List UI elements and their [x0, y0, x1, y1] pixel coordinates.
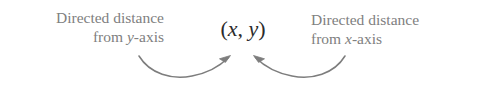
arrow-layer	[0, 0, 485, 92]
right-arrow-head-icon	[254, 56, 265, 63]
left-arrow-curve	[139, 56, 229, 77]
coordinate-point-diagram: Directed distance from y-axis (x, y) Dir…	[0, 0, 485, 92]
left-arrow-head-icon	[220, 56, 231, 63]
right-arrow	[254, 56, 346, 78]
right-arrow-curve	[256, 56, 346, 77]
left-arrow	[139, 56, 231, 78]
